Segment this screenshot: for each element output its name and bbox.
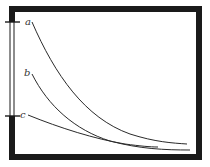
curve-c (28, 115, 158, 147)
frame-right-bar (196, 6, 202, 160)
curve-a-label: a (25, 16, 31, 27)
frame-top-bar (9, 6, 202, 12)
curve-b-label: b (24, 67, 30, 78)
diagram-canvas: a b c (0, 0, 210, 167)
frame-left-lower-segment (9, 116, 15, 160)
curve-b (32, 74, 190, 150)
frame-left-upper-segment (9, 6, 15, 22)
frame-bottom-bar (9, 154, 202, 160)
curve-c-label: c (20, 109, 26, 120)
